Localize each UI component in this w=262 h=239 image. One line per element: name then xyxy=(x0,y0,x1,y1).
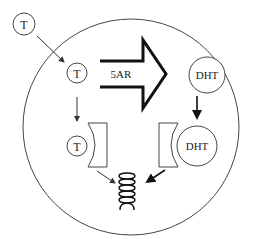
androgen-receptor-right xyxy=(159,123,178,167)
testosterone-inside: T xyxy=(67,63,87,83)
diffusion-arrow xyxy=(37,36,64,62)
t-receptor-complex: T xyxy=(67,123,107,167)
dht-free-label: DHT xyxy=(196,69,219,81)
t-bound-label: T xyxy=(73,140,81,154)
dht-dna-arrow xyxy=(147,170,165,182)
testosterone-outside: T xyxy=(13,13,35,35)
5ar-conversion-arrow: 5AR xyxy=(100,40,166,108)
t-outside-label: T xyxy=(20,18,28,32)
dht-free: DHT xyxy=(189,57,225,93)
dht-receptor-complex: DHT xyxy=(159,123,217,167)
dna-helix-icon xyxy=(119,173,135,210)
androgen-receptor-left xyxy=(88,123,107,167)
t-inside-label: T xyxy=(73,67,81,81)
enzyme-label: 5AR xyxy=(111,68,132,80)
t-dna-arrow xyxy=(97,171,115,183)
dht-bound-label: DHT xyxy=(186,140,209,152)
androgen-pathway-diagram: T T 5AR DHT T DHT xyxy=(0,0,262,239)
